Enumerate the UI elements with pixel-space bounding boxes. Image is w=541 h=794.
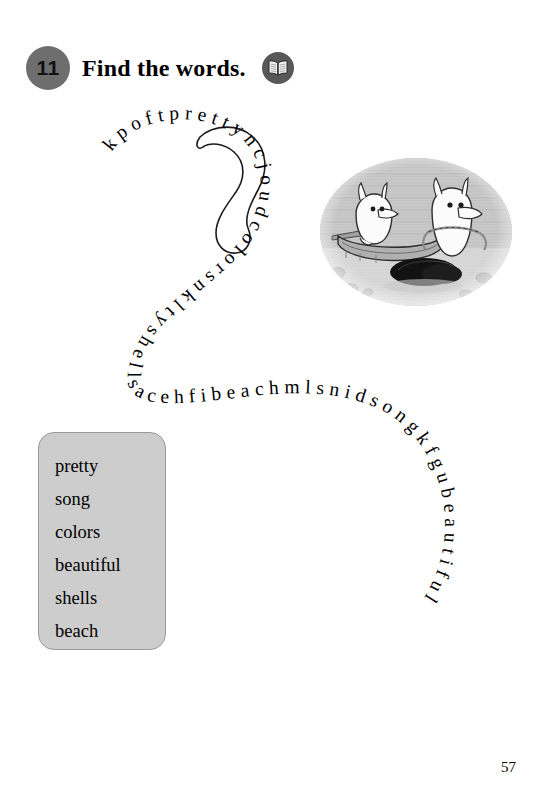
exercise-number-label: 11	[36, 56, 59, 80]
exercise-header: 11 Find the words.	[26, 46, 294, 90]
list-item: beautiful	[55, 549, 165, 582]
exercise-number-badge: 11	[26, 46, 70, 90]
circled-answer-pretty	[197, 127, 265, 253]
page-number: 57	[501, 759, 516, 776]
list-item: song	[55, 483, 165, 516]
moomin-boat-illustration	[316, 152, 516, 312]
list-item: beach	[55, 615, 165, 648]
list-item: colors	[55, 516, 165, 549]
exercise-title: Find the words.	[82, 55, 246, 82]
word-list-box: pretty song colors beautiful shells beac…	[38, 432, 166, 650]
list-item: pretty	[55, 450, 165, 483]
word-snake-puzzle: kpoftprettyncjoudcolorsnkltyshellsacehfi…	[0, 0, 541, 794]
open-book-icon	[262, 52, 294, 84]
list-item: shells	[55, 582, 165, 615]
